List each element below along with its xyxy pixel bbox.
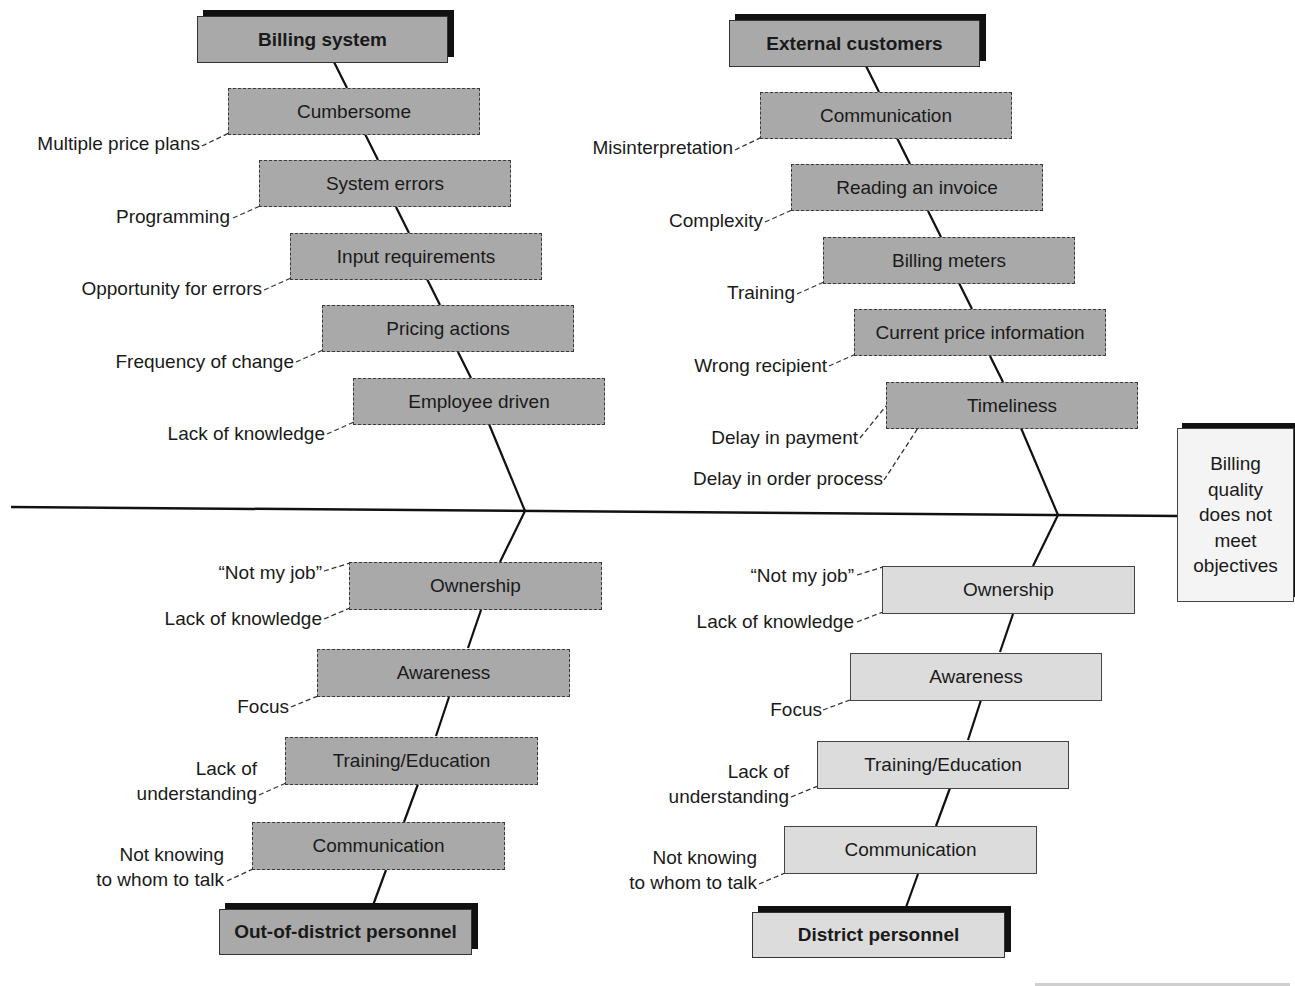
cause-box: Ownership [882, 566, 1135, 614]
subcause-label: to whom to talk [96, 867, 224, 892]
cause-box: Input requirements [290, 233, 542, 280]
subcause-label: Misinterpretation [593, 135, 733, 160]
subcause-label: Lack of knowledge [165, 606, 322, 631]
cause-box: Awareness [317, 649, 570, 697]
subcause-label: Programming [116, 204, 230, 229]
cause-box: Employee driven [353, 378, 605, 425]
cause-box: Awareness [850, 653, 1102, 701]
subcause-label: understanding [137, 781, 257, 806]
cause-box: Cumbersome [228, 88, 480, 135]
subcause-label: Lack of [196, 756, 257, 781]
subcause-label: to whom to talk [629, 870, 757, 895]
cause-box: Timeliness [886, 382, 1138, 429]
category-billing-system: Billing system [197, 16, 448, 63]
cause-box: Training/Education [817, 741, 1069, 789]
cause-box: System errors [259, 160, 511, 207]
subcause-label: Delay in payment [711, 425, 858, 450]
cause-box: Communication [760, 92, 1012, 139]
effect-box: Billing quality does not meet objectives [1177, 428, 1294, 602]
subcause-label: Lack of knowledge [168, 421, 325, 446]
subcause-label: Not knowing [652, 845, 757, 870]
subcause-label: Complexity [669, 208, 763, 233]
category-district-personnel: District personnel [752, 912, 1005, 958]
cause-box: Communication [252, 822, 505, 870]
subcause-label: “Not my job” [219, 560, 322, 585]
cause-box: Training/Education [285, 737, 538, 785]
cause-box: Reading an invoice [791, 164, 1043, 211]
subcause-label: Focus [770, 697, 822, 722]
subcause-label: Lack of [728, 759, 789, 784]
subcause-label: Delay in order process [693, 466, 883, 491]
subcause-label: understanding [669, 784, 789, 809]
cause-box: Pricing actions [322, 305, 574, 352]
subcause-label: Wrong recipient [694, 353, 827, 378]
subcause-label: Multiple price plans [37, 131, 200, 156]
subcause-label: “Not my job” [751, 563, 854, 588]
effect-label: Billing quality does not meet objectives [1188, 451, 1283, 579]
cause-box: Ownership [349, 562, 602, 610]
category-out-of-district-personnel: Out-of-district personnel [219, 909, 472, 955]
subcause-label: Lack of knowledge [697, 609, 854, 634]
subcause-label: Training [727, 280, 795, 305]
subcause-label: Not knowing [119, 842, 224, 867]
subcause-label: Frequency of change [115, 349, 294, 374]
cause-box: Communication [784, 826, 1037, 874]
cause-box: Billing meters [823, 237, 1075, 284]
cause-box: Current price information [854, 309, 1106, 356]
subcause-label: Opportunity for errors [81, 276, 262, 301]
category-external-customers: External customers [729, 20, 980, 67]
subcause-label: Focus [237, 694, 289, 719]
